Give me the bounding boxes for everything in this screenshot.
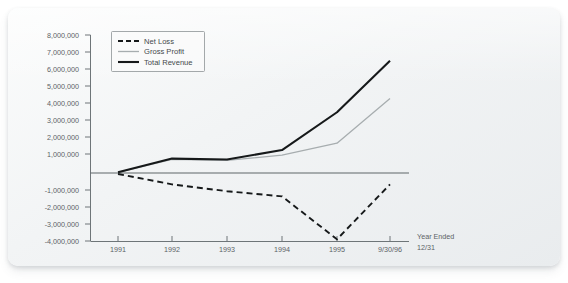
y-axis (85, 35, 91, 241)
y-tick-label: 2,000,000 (47, 133, 79, 142)
y-tick-label: 7,000,000 (47, 48, 79, 57)
y-tick-label: -1,000,000 (45, 186, 79, 195)
y-tick-label: -3,000,000 (45, 220, 79, 229)
y-tick-label: 4,000,000 (47, 99, 79, 108)
legend-label-net-loss: Net Loss (144, 37, 174, 46)
legend-label-total-revenue: Total Revenue (144, 58, 193, 67)
x-tick-label: 1994 (274, 245, 290, 254)
x-axis-tick-labels: 1991 1992 1993 1994 1995 9/30/96 (110, 245, 402, 254)
series-line-total-revenue (118, 61, 390, 173)
x-tick-label: 1995 (329, 245, 345, 254)
y-tick-label: -4,000,000 (45, 237, 79, 246)
y-tick-label: 8,000,000 (47, 31, 79, 40)
x-tick-label: 9/30/96 (378, 245, 402, 254)
y-tick-label: 1,000,000 (47, 150, 79, 159)
legend-label-gross-profit: Gross Profit (144, 47, 185, 56)
year-ended-line-2: 12/31 (417, 243, 435, 252)
financial-line-chart: 8,000,000 7,000,000 6,000,000 5,000,000 … (0, 0, 568, 283)
y-tick-label: -2,000,000 (45, 203, 79, 212)
series-group (118, 61, 390, 240)
year-ended-annotation: Year Ended 12/31 (417, 232, 454, 252)
y-tick-label: 3,000,000 (47, 116, 79, 125)
x-axis (91, 236, 410, 242)
chart-legend: Net Loss Gross Profit Total Revenue (112, 32, 205, 72)
x-tick-label: 1993 (219, 245, 235, 254)
y-tick-label: 5,000,000 (47, 82, 79, 91)
year-ended-line-1: Year Ended (417, 232, 454, 241)
x-tick-label: 1991 (110, 245, 126, 254)
x-tick-label: 1992 (164, 245, 180, 254)
y-axis-tick-labels: 8,000,000 7,000,000 6,000,000 5,000,000 … (45, 31, 79, 246)
y-tick-label: 6,000,000 (47, 65, 79, 74)
series-line-net-loss (118, 174, 390, 239)
